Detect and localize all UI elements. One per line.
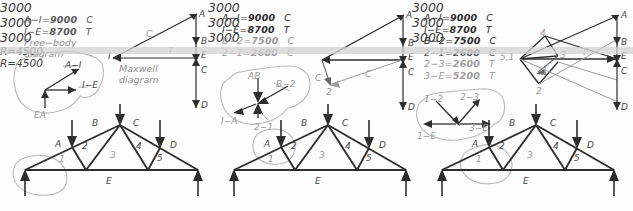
truss-panel-3-1: 3 (110, 150, 116, 160)
truss-joint-E-3: E (523, 176, 529, 186)
truss-joint-E-2: E (315, 176, 321, 186)
truss-joint-C-2: C (342, 118, 348, 128)
panel-2: A−I=9000C I−E=8700T B−2=7500C 2−1=2600C (208, 0, 420, 211)
truss-panel-1-1: 1 (59, 154, 65, 164)
truss-joint-D-3: D (587, 140, 594, 150)
truss-panel-3-3: 3 (527, 150, 533, 160)
truss-panel-1-2: 1 (268, 154, 274, 164)
truss-panel-3-2: 3 (319, 150, 325, 160)
truss-joint-A-3: A (472, 139, 478, 149)
truss-joint-C-3: C (550, 118, 556, 128)
truss-joint-A-2: A (264, 139, 270, 149)
truss-joint-C-1: C (133, 118, 139, 128)
truss-panel-5-1: 5 (157, 153, 163, 163)
truss-drawing-2 (208, 0, 420, 211)
truss-joint-D-2: D (379, 140, 386, 150)
truss-panel-4-1: 4 (136, 141, 142, 151)
truss-panel-4-3: 4 (553, 141, 559, 151)
truss-panel-1-3: 1 (476, 154, 482, 164)
truss-panel-5-3: 5 (574, 153, 580, 163)
truss-joint-D-1: D (170, 140, 177, 150)
truss-panel-2-1: 2 (82, 141, 88, 151)
truss-joint-A-1: A (55, 139, 61, 149)
truss-panel-4-2: 4 (345, 141, 351, 151)
worksheet-sheet: A−I=9000C I−E=8700T Free−body diagram Ma… (0, 0, 633, 211)
truss-joint-B-1: B (92, 118, 98, 128)
truss-joint-B-2: B (301, 118, 307, 128)
truss-panel-2-2: 2 (291, 141, 297, 151)
truss-panel-5-2: 5 (366, 153, 372, 163)
truss-joint-E-1: E (106, 176, 112, 186)
panel-1: A−I=9000C I−E=8700T Free−body diagram Ma… (0, 0, 215, 211)
truss-joint-B-3: B (509, 118, 515, 128)
truss-panel-2-3: 2 (499, 141, 505, 151)
panel-3: A−I=9000C I−E=8700T B−2=7500C 2−1=2600C … (412, 0, 633, 211)
